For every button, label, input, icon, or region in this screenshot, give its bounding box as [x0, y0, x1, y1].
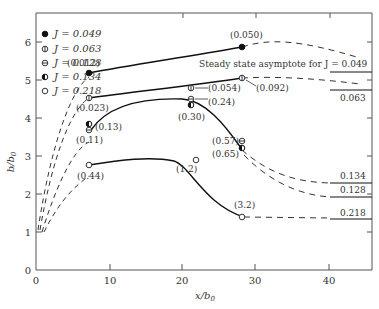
svg-text:0.218: 0.218: [340, 208, 366, 218]
svg-text:40: 40: [323, 275, 336, 286]
svg-text:(0.11): (0.11): [76, 135, 103, 145]
svg-text:(0.44): (0.44): [77, 171, 104, 181]
svg-text:30: 30: [249, 275, 262, 286]
svg-text:5: 5: [25, 75, 31, 86]
svg-text:1: 1: [25, 227, 31, 238]
jet-width-chart: 0 1 2 3 4 5 6 0 10 20 30 40 x/b0 b/b0 J …: [0, 0, 379, 309]
svg-text:(0.054): (0.054): [208, 83, 241, 93]
svg-text:6: 6: [25, 37, 31, 48]
svg-text:0: 0: [25, 265, 31, 276]
svg-text:0: 0: [33, 275, 39, 286]
svg-text:(1.2): (1.2): [176, 164, 197, 174]
svg-text:J = 0.063: J = 0.063: [52, 43, 101, 54]
solid-curves: [89, 47, 244, 217]
y-tick-labels: 0 1 2 3 4 5 6: [25, 37, 31, 276]
x-axis-label: x/b0: [195, 290, 215, 303]
svg-text:(0.30): (0.30): [178, 112, 205, 122]
x-tick-labels: 0 10 20 30 40: [33, 275, 336, 286]
svg-text:(0.13): (0.13): [95, 122, 122, 132]
svg-text:(3.2): (3.2): [234, 200, 255, 210]
svg-text:(0.050): (0.050): [230, 30, 263, 40]
svg-text:J = 0.218: J = 0.218: [52, 85, 101, 96]
svg-text:2: 2: [25, 189, 31, 200]
svg-text:4: 4: [25, 113, 31, 124]
svg-text:0.128: 0.128: [340, 185, 366, 195]
svg-text:(0.092): (0.092): [256, 83, 289, 93]
svg-text:3: 3: [25, 151, 31, 162]
svg-text:Steady state asymptote for J =: Steady state asymptote for J = 0.049: [199, 59, 368, 69]
svg-text:J = 0.049: J = 0.049: [52, 28, 102, 39]
svg-text:(0.57): (0.57): [212, 136, 239, 146]
svg-text:(0.65): (0.65): [212, 149, 239, 159]
y-axis-label: b/b0: [5, 151, 18, 172]
svg-text:(0.012): (0.012): [67, 58, 100, 68]
data-markers: [86, 44, 245, 220]
svg-text:0.063: 0.063: [340, 93, 366, 103]
svg-text:(0.24): (0.24): [208, 97, 235, 107]
svg-text:10: 10: [104, 275, 117, 286]
svg-text:(0.023): (0.023): [76, 103, 109, 113]
svg-text:0.134: 0.134: [340, 171, 366, 181]
svg-text:20: 20: [176, 275, 189, 286]
